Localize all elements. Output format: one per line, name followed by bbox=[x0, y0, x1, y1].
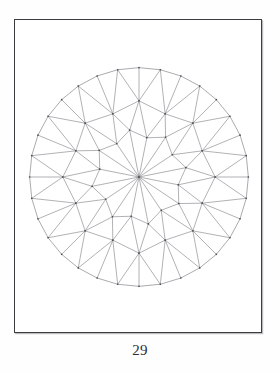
facet-edge bbox=[76, 199, 106, 203]
facet-vertex bbox=[239, 218, 241, 220]
facet-edge bbox=[113, 114, 117, 144]
facet-vertex bbox=[47, 237, 49, 239]
facet-vertex bbox=[91, 186, 93, 188]
facet-vertex bbox=[29, 176, 31, 178]
facet-edge bbox=[202, 151, 246, 156]
facet-vertex bbox=[96, 277, 98, 279]
facet-edge bbox=[32, 177, 63, 198]
facet-edge bbox=[139, 240, 165, 253]
facet-edge bbox=[202, 177, 215, 203]
facet-vertex bbox=[61, 99, 63, 101]
facet-edge bbox=[130, 101, 139, 130]
page-canvas: 29 bbox=[0, 0, 280, 373]
facet-edge bbox=[148, 210, 161, 224]
facet-vertex bbox=[180, 277, 182, 279]
facet-vertex bbox=[160, 69, 162, 71]
facet-vertex bbox=[130, 215, 132, 217]
facet-edge bbox=[193, 203, 202, 231]
facet-vertex bbox=[199, 85, 201, 87]
facet-edge bbox=[76, 123, 85, 151]
facet-vertex bbox=[84, 230, 86, 232]
facet-edge bbox=[178, 168, 186, 185]
facet-edge bbox=[202, 203, 240, 219]
facet-edge bbox=[117, 130, 130, 144]
facet-vertex bbox=[177, 184, 179, 186]
facet-edge bbox=[76, 151, 100, 169]
facet-edge bbox=[63, 151, 76, 177]
gem-geometry bbox=[29, 67, 249, 287]
facet-vertex bbox=[180, 75, 182, 77]
diamond-facet-diagram bbox=[15, 20, 263, 334]
facet-edge bbox=[193, 123, 202, 151]
facet-edge bbox=[165, 231, 193, 240]
facet-edge bbox=[85, 199, 106, 231]
facet-vertex bbox=[37, 218, 39, 220]
facet-edge bbox=[215, 177, 246, 198]
facet-vertex bbox=[61, 253, 63, 255]
facet-edge bbox=[165, 240, 181, 278]
facet-vertex bbox=[105, 198, 107, 200]
facet-vertex bbox=[245, 198, 247, 200]
facet-edge bbox=[172, 151, 202, 155]
facet-edge bbox=[202, 116, 230, 151]
facet-edge bbox=[85, 217, 112, 231]
facet-vertex bbox=[248, 176, 250, 178]
facet-edge bbox=[139, 101, 147, 138]
facet-edge bbox=[165, 240, 200, 268]
facet-edge bbox=[112, 216, 131, 217]
facet-vertex bbox=[138, 67, 140, 69]
facet-edge bbox=[131, 216, 139, 253]
facet-edge bbox=[38, 135, 76, 151]
facet-edge bbox=[113, 114, 130, 130]
facet-edge bbox=[160, 240, 165, 284]
facet-edge bbox=[178, 185, 179, 204]
facet-vertex bbox=[192, 230, 194, 232]
facet-vertex bbox=[75, 202, 77, 204]
facet-vertex bbox=[31, 155, 33, 157]
facet-vertex bbox=[215, 99, 217, 101]
facet-edge bbox=[147, 114, 165, 138]
facet-edge bbox=[215, 156, 246, 177]
facet-edge bbox=[148, 224, 165, 240]
facet-edge bbox=[130, 130, 147, 138]
facet-edge bbox=[186, 151, 202, 168]
facet-edge bbox=[165, 86, 200, 114]
facet-vertex bbox=[192, 122, 194, 124]
facet-edge bbox=[186, 168, 215, 177]
facet-vertex bbox=[77, 85, 79, 87]
facet-edge bbox=[139, 70, 160, 101]
facet-edge bbox=[147, 137, 166, 138]
facet-edge bbox=[76, 203, 85, 231]
facet-edge bbox=[118, 253, 139, 284]
facet-edge bbox=[113, 101, 139, 114]
facet-edge bbox=[113, 240, 139, 253]
facet-edge bbox=[165, 76, 181, 114]
facet-vertex bbox=[178, 203, 180, 205]
facet-edge bbox=[85, 123, 99, 150]
facet-vertex bbox=[138, 176, 140, 178]
facet-edge bbox=[139, 253, 160, 284]
facet-vertex bbox=[116, 143, 118, 145]
facet-edge bbox=[106, 199, 113, 217]
facet-edge bbox=[48, 116, 76, 151]
facet-vertex bbox=[112, 239, 114, 241]
facet-vertex bbox=[148, 223, 150, 225]
facet-edge bbox=[63, 177, 92, 186]
facet-edge bbox=[76, 186, 92, 203]
facet-vertex bbox=[165, 136, 167, 138]
facet-vertex bbox=[214, 176, 216, 178]
facet-edge bbox=[160, 70, 165, 114]
facet-edge bbox=[161, 210, 165, 240]
facet-edge bbox=[139, 224, 148, 253]
facet-vertex bbox=[117, 283, 119, 285]
facet-vertex bbox=[215, 253, 217, 255]
facet-edge bbox=[202, 198, 246, 203]
facet-vertex bbox=[112, 216, 114, 218]
facet-edge bbox=[165, 114, 193, 123]
facet-vertex bbox=[201, 150, 203, 152]
facet-vertex bbox=[37, 134, 39, 136]
facet-vertex bbox=[96, 75, 98, 77]
facet-edge bbox=[161, 210, 193, 231]
facet-vertex bbox=[160, 283, 162, 285]
facet-edge bbox=[202, 203, 230, 238]
